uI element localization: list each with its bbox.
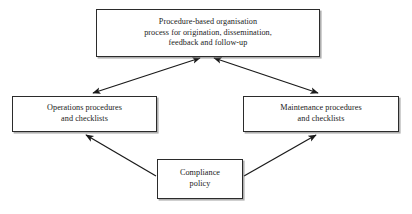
arrow-compliance-to-operations xyxy=(86,135,156,176)
node-label: Maintenance procedures and checklists xyxy=(277,103,364,124)
node-procedure-based-organisation: Procedure-based organisation process for… xyxy=(96,9,320,57)
arrow-compliance-to-maintenance xyxy=(244,135,316,176)
node-maintenance-procedures: Maintenance procedures and checklists xyxy=(243,96,399,132)
node-label: Procedure-based organisation process for… xyxy=(141,17,275,49)
node-label: Compliance policy xyxy=(177,168,223,189)
node-operations-procedures: Operations procedures and checklists xyxy=(12,96,157,132)
arrow-top-to-maintenance xyxy=(214,58,318,93)
node-label: Operations procedures and checklists xyxy=(44,103,125,124)
flowchart-diagram: Procedure-based organisation process for… xyxy=(0,0,412,214)
arrow-top-to-operations xyxy=(93,58,200,93)
node-compliance-policy: Compliance policy xyxy=(157,159,243,199)
